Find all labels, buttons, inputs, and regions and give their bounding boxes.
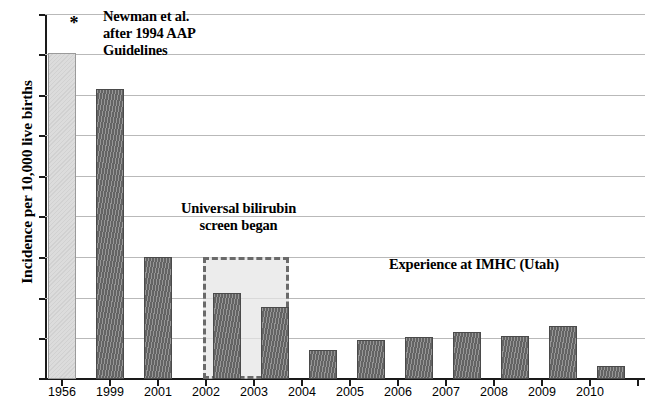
gridline-10 bbox=[45, 176, 645, 177]
annotation-newman-line3: Guidelines bbox=[103, 42, 283, 59]
x-tick-mark-end bbox=[637, 379, 639, 386]
x-tick-label-2009: 2009 bbox=[518, 386, 566, 399]
bar-2004[interactable] bbox=[309, 350, 337, 379]
bar-1956[interactable] bbox=[48, 53, 76, 379]
bar-2001[interactable] bbox=[144, 257, 172, 379]
gridline-12 bbox=[45, 135, 645, 136]
x-tick-label-2001: 2001 bbox=[134, 386, 182, 399]
x-tick-label-2002: 2002 bbox=[182, 386, 230, 399]
gridline-8 bbox=[45, 216, 645, 217]
annotation-newman-line1: Newman et al. bbox=[103, 8, 283, 25]
annotation-imhc: Experience at IMHC (Utah) bbox=[389, 256, 639, 273]
annotation-newman: Newman et al. after 1994 AAP Guidelines bbox=[103, 8, 283, 58]
x-tick-label-1956: 1956 bbox=[38, 386, 86, 399]
x-tick-label-2005: 2005 bbox=[326, 386, 374, 399]
annotation-screen-line1: Universal bilirubin bbox=[166, 200, 311, 217]
annotation-screen-line2: screen began bbox=[166, 217, 311, 234]
x-tick-label-2007: 2007 bbox=[422, 386, 470, 399]
bar-2009[interactable] bbox=[549, 326, 577, 379]
x-tick-label-2008: 2008 bbox=[470, 386, 518, 399]
x-tick-label-2004: 2004 bbox=[278, 386, 326, 399]
gridline-4 bbox=[45, 298, 645, 299]
y-axis-title: Incidence per 10,000 live births bbox=[18, 32, 36, 332]
asterisk-annotation: * bbox=[60, 14, 88, 32]
bar-2002[interactable] bbox=[213, 293, 241, 379]
bar-2010[interactable] bbox=[597, 366, 625, 379]
x-tick-label-1999: 1999 bbox=[86, 386, 134, 399]
bar-chart-figure: Incidence per 10,000 live births 18 16 1… bbox=[0, 0, 647, 407]
bar-2006[interactable] bbox=[405, 337, 433, 379]
bar-2007[interactable] bbox=[453, 332, 481, 379]
x-tick-label-2010: 2010 bbox=[566, 386, 614, 399]
bar-1999[interactable] bbox=[96, 89, 124, 379]
bar-2003[interactable] bbox=[261, 307, 289, 379]
x-tick-label-2003: 2003 bbox=[230, 386, 278, 399]
annotation-universal-screen: Universal bilirubin screen began bbox=[166, 200, 311, 234]
plot-area bbox=[45, 14, 645, 379]
bar-2005[interactable] bbox=[357, 340, 385, 379]
x-tick-label-2006: 2006 bbox=[374, 386, 422, 399]
gridline-14 bbox=[45, 95, 645, 96]
annotation-newman-line2: after 1994 AAP bbox=[103, 25, 283, 42]
bar-2008[interactable] bbox=[501, 336, 529, 379]
